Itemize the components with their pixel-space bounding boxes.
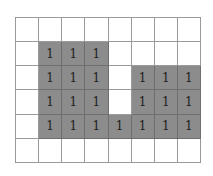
- grid-cell-filled: 1: [178, 66, 201, 90]
- grid-cell-empty: [155, 42, 178, 66]
- grid-cell-empty: [39, 18, 62, 42]
- grid-cell-filled: 1: [39, 90, 62, 114]
- grid-cell-filled: 1: [85, 66, 108, 90]
- grid-cell-empty: [85, 18, 108, 42]
- grid-cell-empty: [16, 115, 39, 139]
- binary-grid: 1111111111111111111111: [15, 17, 201, 163]
- grid-cell-filled: 1: [85, 90, 108, 114]
- grid-cell-filled: 1: [178, 90, 201, 114]
- grid-cell-filled: 1: [155, 90, 178, 114]
- grid-cell-filled: 1: [62, 66, 85, 90]
- grid-cell-empty: [132, 139, 155, 163]
- grid-cell-empty: [155, 139, 178, 163]
- grid-cell-empty: [16, 90, 39, 114]
- grid-cell-filled: 1: [39, 42, 62, 66]
- grid-cell-filled: 1: [132, 115, 155, 139]
- grid-cell-empty: [178, 18, 201, 42]
- grid-cell-filled: 1: [62, 115, 85, 139]
- grid-cell-filled: 1: [85, 115, 108, 139]
- grid-cell-filled: 1: [132, 66, 155, 90]
- grid-cell-empty: [16, 139, 39, 163]
- grid-cell-filled: 1: [132, 90, 155, 114]
- grid-cell-empty: [16, 18, 39, 42]
- grid-cell-filled: 1: [155, 66, 178, 90]
- grid-cell-empty: [178, 42, 201, 66]
- grid-cell-empty: [155, 18, 178, 42]
- grid-cell-filled: 1: [39, 66, 62, 90]
- grid-cell-empty: [109, 90, 132, 114]
- grid-cell-empty: [109, 42, 132, 66]
- grid-cell-empty: [109, 139, 132, 163]
- grid-cell-empty: [62, 18, 85, 42]
- grid-cell-filled: 1: [39, 115, 62, 139]
- grid-cell-empty: [132, 42, 155, 66]
- grid-cell-empty: [132, 18, 155, 42]
- grid-cell-empty: [178, 139, 201, 163]
- grid-cell-filled: 1: [155, 115, 178, 139]
- grid-cell-empty: [16, 66, 39, 90]
- grid-cell-filled: 1: [62, 42, 85, 66]
- grid-cell-filled: 1: [109, 115, 132, 139]
- grid-cell-filled: 1: [178, 115, 201, 139]
- grid-cell-empty: [85, 139, 108, 163]
- grid-cell-empty: [62, 139, 85, 163]
- grid-cell-empty: [109, 18, 132, 42]
- grid-cell-empty: [39, 139, 62, 163]
- grid-cell-filled: 1: [85, 42, 108, 66]
- grid-cell-empty: [109, 66, 132, 90]
- grid-cell-filled: 1: [62, 90, 85, 114]
- grid-cell-empty: [16, 42, 39, 66]
